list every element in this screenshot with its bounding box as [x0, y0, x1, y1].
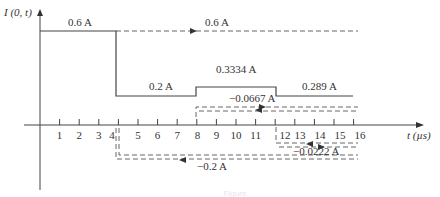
- tick-2: 2: [76, 129, 82, 141]
- tick-14: 14: [315, 129, 327, 141]
- label-minus-0.0222A: −0.0222 A: [293, 145, 340, 157]
- label-forward-0.6A: 0.6 A: [205, 16, 229, 28]
- x-ticks: [60, 119, 354, 125]
- label-initial-0.6A: 0.6 A: [68, 16, 92, 28]
- tick-4: 4: [109, 129, 115, 141]
- x-axis-arrow-icon: [416, 122, 424, 128]
- tick-3: 3: [96, 129, 102, 141]
- tick-1: 1: [57, 129, 63, 141]
- tick-8: 8: [195, 129, 201, 141]
- label-0.289A: 0.289 A: [302, 80, 337, 92]
- forward-arrow-icon: [190, 28, 197, 34]
- tick-9: 9: [214, 129, 220, 141]
- y-axis-arrow-icon: [37, 9, 43, 16]
- tick-12: 12: [280, 129, 291, 141]
- tick-13: 13: [295, 129, 307, 141]
- figure-caption: Figure: [224, 189, 247, 197]
- bounce-diagram: 1 2 3 4 5 6 7 8 9 10 11 12 13 14 15 16 I…: [0, 0, 440, 197]
- reflection-2-dashed: [196, 107, 358, 117]
- y-axis-label: I (0, t): [3, 6, 32, 19]
- x-tick-labels: 1 2 3 4 5 6 7 8 9 10 11 12 13 14 15 16: [57, 129, 366, 141]
- tick-7: 7: [174, 129, 180, 141]
- tick-5: 5: [135, 129, 141, 141]
- tick-10: 10: [231, 129, 243, 141]
- tick-15: 15: [335, 129, 347, 141]
- label-minus-0.2A: −0.2 A: [197, 160, 227, 172]
- label-0.3334A: 0.3334 A: [216, 63, 256, 75]
- label-minus-0.0667A: −0.0667 A: [229, 92, 276, 104]
- tick-16: 16: [355, 129, 367, 141]
- tick-6: 6: [155, 129, 161, 141]
- x-axis-label: t (µs): [407, 129, 431, 142]
- label-0.2A: 0.2 A: [149, 80, 173, 92]
- tick-11: 11: [250, 129, 261, 141]
- reflection-1-arrow-icon: [179, 157, 186, 163]
- reflection-2-right-arrow-icon: [259, 104, 266, 110]
